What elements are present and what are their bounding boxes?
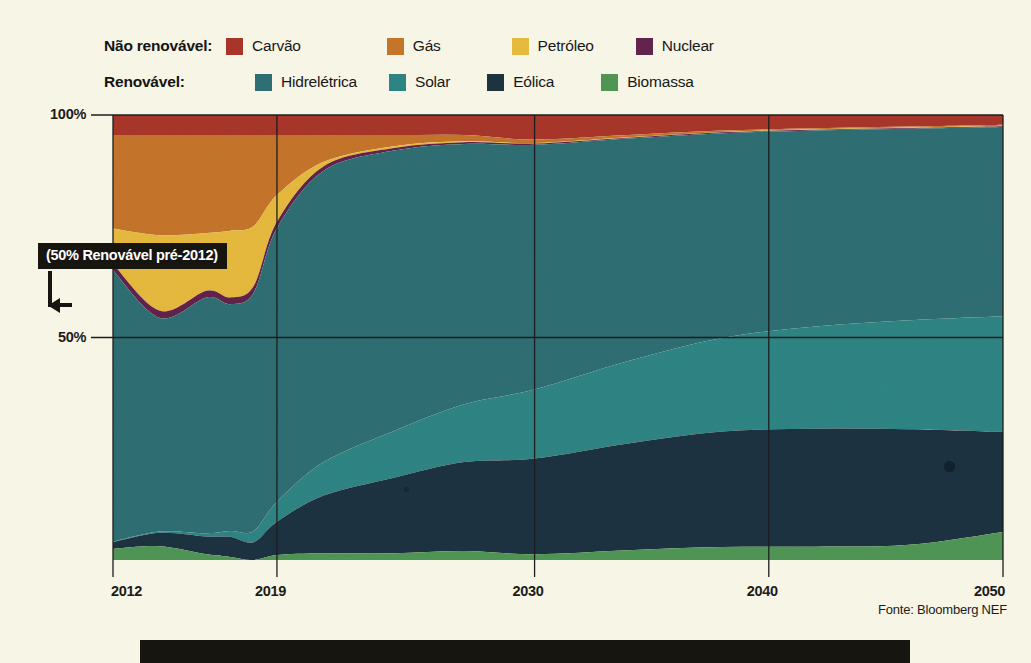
chart-canvas: [0, 0, 1031, 663]
annotation-callout: (50% Renovável pré-2012): [38, 243, 227, 269]
bottom-panel-strip: [140, 640, 910, 663]
x-axis-label-2012: 2012: [111, 583, 142, 599]
x-axis-label-2040: 2040: [747, 583, 778, 599]
print-speck: [944, 461, 955, 472]
stacked-area-chart: 100% 50% 2012 2019 2030 2040 2050 (50% R…: [0, 0, 1031, 663]
x-axis-label-2050: 2050: [951, 583, 1005, 599]
y-axis-label-50: 50%: [26, 329, 86, 345]
print-speck: [404, 487, 409, 492]
y-axis-label-100: 100%: [26, 106, 86, 122]
annotation-arrow-icon: [46, 271, 86, 321]
x-axis-label-2019: 2019: [255, 583, 286, 599]
chart-source-note: Fonte: Bloomberg NEF: [878, 602, 1007, 617]
x-axis-label-2030: 2030: [513, 583, 544, 599]
